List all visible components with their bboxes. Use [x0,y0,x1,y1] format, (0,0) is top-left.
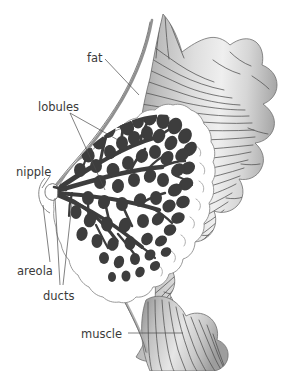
breast-anatomy-diagram: fat lobules nipple areola ducts muscle [0,0,295,371]
label-areola: areola [17,264,53,278]
label-muscle: muscle [81,327,122,341]
label-fat: fat [87,51,103,65]
anatomy-illustration: fat lobules nipple areola ducts muscle [0,0,295,371]
label-lobules: lobules [38,100,79,114]
label-nipple: nipple [16,165,51,179]
muscle-lower-body [142,296,228,371]
leader-areola [43,205,50,262]
muscle-lower-band [142,296,228,371]
label-ducts: ducts [43,289,74,303]
